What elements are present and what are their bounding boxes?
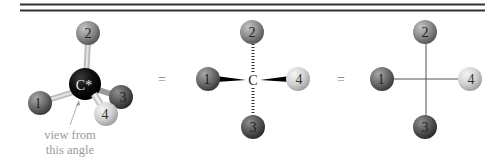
sphere-2: 2 — [240, 20, 264, 44]
svg-text:2: 2 — [85, 26, 92, 41]
svg-text:4: 4 — [102, 107, 109, 122]
middle-wedge-dash: C 2 1 4 3 — [196, 20, 310, 139]
top-double-rule — [20, 5, 485, 11]
svg-text:4: 4 — [296, 72, 303, 87]
svg-text:C*: C* — [76, 78, 92, 93]
sphere-4: 4 — [458, 67, 482, 91]
sphere-4: 4 — [286, 67, 310, 91]
svg-text:3: 3 — [250, 120, 257, 135]
svg-text:3: 3 — [120, 90, 127, 105]
sphere-1: 1 — [370, 67, 394, 91]
svg-text:1: 1 — [204, 72, 211, 87]
wedge-bond-left — [216, 76, 246, 82]
sphere-3: 3 — [413, 115, 437, 139]
svg-text:4: 4 — [468, 72, 475, 87]
sphere-4: 4 — [94, 102, 118, 126]
carbon-label: C — [248, 73, 257, 88]
view-arrow — [70, 100, 80, 125]
equals-sign-2: = — [337, 72, 345, 87]
annotation-this-angle: this angle — [46, 143, 95, 157]
chirality-diagram: 2 3 C* 1 4 view from this angl — [0, 0, 500, 167]
left-3d-model: 2 3 C* 1 4 view from this angl — [28, 21, 133, 157]
wedge-bond-right — [260, 76, 290, 82]
right-fischer-projection: 2 1 4 3 — [370, 20, 482, 139]
sphere-1: 1 — [28, 91, 52, 115]
sphere-2: 2 — [413, 20, 437, 44]
sphere-2: 2 — [76, 21, 100, 45]
svg-text:3: 3 — [422, 120, 429, 135]
svg-text:2: 2 — [249, 25, 256, 40]
annotation-view-from: view from — [44, 128, 96, 142]
svg-text:2: 2 — [422, 25, 429, 40]
svg-text:1: 1 — [35, 96, 42, 111]
sphere-1: 1 — [196, 67, 220, 91]
equals-sign-1: = — [158, 72, 166, 87]
sphere-3: 3 — [241, 115, 265, 139]
svg-text:1: 1 — [378, 72, 385, 87]
